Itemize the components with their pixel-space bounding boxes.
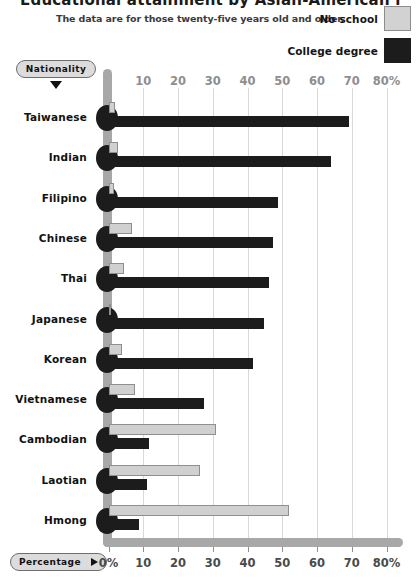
category-label: Japanese [0,313,87,325]
x-tick-label-bottom: 20 [170,556,186,570]
bar-no-school [109,223,133,234]
bar-no-school [109,465,200,476]
bar-no-school [109,183,114,194]
bar-row[interactable]: Laotian [0,461,417,501]
bar-row[interactable]: Filipino [0,179,417,219]
bar-college-degree [109,237,274,248]
bar-no-school [109,102,115,113]
category-label: Filipino [0,192,87,204]
x-tick-label-top: 80% [373,74,401,88]
x-tick-label-bottom: 70 [344,556,360,570]
x-tick-label-top: 20 [170,74,186,88]
bar-row[interactable]: Indian [0,138,417,178]
bar-college-degree [109,277,270,288]
x-tick-label-bottom: 30 [205,556,221,570]
bar-college-degree [109,519,140,530]
bar-college-degree [109,318,265,329]
x-tick-label-top: 60 [309,74,325,88]
x-tick-label-bottom: 80% [373,556,401,570]
bar-no-school [109,505,289,516]
bar-college-degree [109,116,350,127]
bar-college-degree [109,438,149,449]
x-tick-label-top: 30 [205,74,221,88]
bar-no-school [109,142,119,153]
x-tick-label-bottom: 40 [240,556,256,570]
bar-no-school [109,263,125,274]
x-tick-label-top: 40 [240,74,256,88]
bar-chart-plot: 0%101020203030404050506060707080%80% Tai… [0,0,417,579]
category-label: Thai [0,272,87,284]
bar-college-degree [109,358,254,369]
bar-row[interactable]: Japanese [0,300,417,340]
bar-row[interactable]: Taiwanese [0,98,417,138]
category-label: Cambodian [0,433,87,445]
x-tick-label-bottom: 50 [274,556,290,570]
bar-row[interactable]: Cambodian [0,420,417,460]
bar-row[interactable]: Korean [0,340,417,380]
x-tick-label-bottom: 60 [309,556,325,570]
bar-no-school [109,304,111,315]
bar-row[interactable]: Chinese [0,219,417,259]
bar-row[interactable]: Thai [0,259,417,299]
bar-row[interactable]: Vietnamese [0,380,417,420]
category-label: Chinese [0,232,87,244]
category-label: Korean [0,353,87,365]
x-tick-label-top: 10 [135,74,151,88]
x-tick-label-top: 70 [344,74,360,88]
category-label: Laotian [0,474,87,486]
bar-college-degree [109,156,331,167]
bar-row[interactable]: Hmong [0,501,417,541]
bar-college-degree [109,197,279,208]
category-label: Taiwanese [0,111,87,123]
x-tick-label-top: 50 [274,74,290,88]
x-tick-label-bottom: 10 [135,556,151,570]
bar-college-degree [109,398,205,409]
x-tick-label-bottom: 0% [99,556,119,570]
bar-no-school [109,384,135,395]
category-label: Hmong [0,514,87,526]
category-label: Indian [0,151,87,163]
bar-college-degree [109,479,147,490]
category-label: Vietnamese [0,393,87,405]
bar-no-school [109,424,216,435]
bar-no-school [109,344,123,355]
